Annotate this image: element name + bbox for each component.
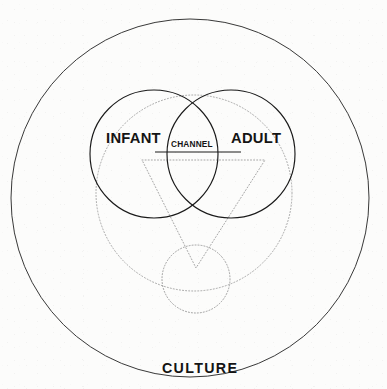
label-channel: CHANNEL — [171, 140, 213, 149]
label-adult: ADULT — [231, 130, 281, 146]
diagram-canvas: INFANT ADULT CHANNEL CULTURE — [0, 0, 387, 389]
dotted-triangle — [142, 160, 265, 268]
outer-culture-circle — [11, 19, 369, 377]
diagram-vector-layer — [0, 0, 387, 389]
adult-circle — [167, 90, 295, 218]
large-dotted-circle — [96, 95, 292, 291]
small-dotted-circle — [162, 245, 230, 313]
infant-circle — [90, 90, 218, 218]
label-culture: CULTURE — [162, 360, 238, 375]
label-infant: INFANT — [106, 130, 161, 146]
